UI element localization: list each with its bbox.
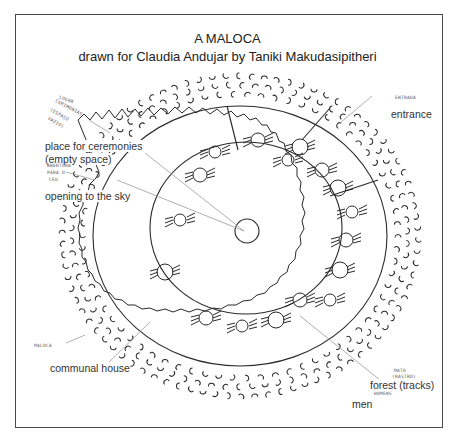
label-forest: forest (tracks) [370,379,434,391]
hw-mato: MATO [394,368,406,373]
label-ceremonies: place for ceremonies [45,140,142,152]
label-opening-to-sky: opening to the sky [45,190,130,202]
label-communal-house: communal house [50,362,130,374]
hw-ceu: CÉU [49,177,58,182]
hw-abertura: ABERTURA [47,163,71,168]
hw-rastro: (RASTRO) [392,374,416,379]
hw-entrada: ENTRADA [395,95,416,100]
hw-maloca: MALOCA [34,343,52,348]
hw-para-o: PARA O [47,170,65,175]
label-men: men [352,398,372,410]
sky-opening [235,219,259,243]
forest-texture [59,73,421,399]
label-entrance: entrance [391,108,432,120]
hw-homens: HOMENS [374,391,392,396]
